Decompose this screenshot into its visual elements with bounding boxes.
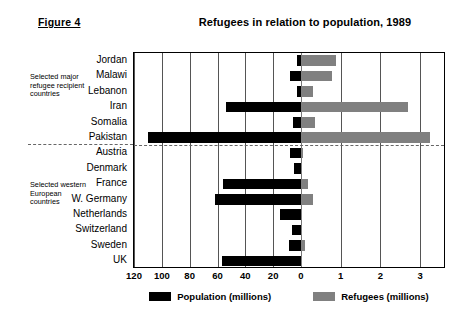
legend-label: Population (millions): [177, 291, 271, 302]
tick-label-population-60: 60: [212, 270, 223, 281]
country-label: Denmark: [60, 160, 131, 175]
chart-row: [134, 130, 444, 145]
bar-refugees: [301, 194, 313, 205]
chart-row: [134, 238, 444, 253]
chart-row: [134, 115, 444, 130]
bar-population: [222, 256, 301, 267]
bar-refugees: [301, 55, 336, 66]
group-divider-left: [28, 144, 133, 145]
chart-row: [134, 99, 444, 114]
tick-label-refugees-1: 1: [338, 270, 343, 281]
bar-refugees: [301, 163, 302, 174]
legend-item: Population (millions): [149, 291, 271, 302]
bar-refugees: [301, 71, 332, 82]
tick-label-population-40: 40: [240, 270, 251, 281]
tick-label-population-20: 20: [268, 270, 279, 281]
bar-refugees: [301, 102, 408, 113]
bar-population: [215, 194, 301, 205]
chart-row: [134, 207, 444, 222]
tick-label-population-100: 100: [154, 270, 170, 281]
bar-refugees: [301, 256, 302, 267]
chart-row: [134, 84, 444, 99]
bar-population: [290, 71, 301, 82]
tick-label-population-80: 80: [184, 270, 195, 281]
legend-label: Refugees (millions): [341, 291, 429, 302]
bar-population: [293, 117, 301, 128]
chart-row: [134, 145, 444, 160]
tick-label-population-0: 0: [298, 270, 303, 281]
country-label: Netherlands: [60, 206, 131, 221]
country-label: Malawi: [60, 67, 131, 82]
chart-row: [134, 176, 444, 191]
bar-population: [292, 225, 301, 236]
bar-population: [226, 102, 301, 113]
bar-refugees: [301, 209, 302, 220]
country-label: W. Germany: [60, 191, 131, 206]
country-label: France: [60, 175, 131, 190]
country-label: Sweden: [60, 237, 131, 252]
bar-refugees: [301, 240, 305, 251]
chart-row: [134, 68, 444, 83]
legend-swatch-icon: [149, 292, 171, 301]
tick-label-refugees-2: 2: [378, 270, 383, 281]
country-label: Switzerland: [60, 221, 131, 236]
tick-label-refugees-3: 3: [418, 270, 423, 281]
legend-item: Refugees (millions): [313, 291, 429, 302]
country-label: Somalia: [60, 114, 131, 129]
bar-refugees: [301, 117, 315, 128]
chart-row: [134, 253, 444, 268]
chart-title: Refugees in relation to population, 1989: [150, 16, 460, 28]
chart-row: [134, 161, 444, 176]
bar-refugees: [301, 148, 303, 159]
category-axis-labels: JordanMalawiLebanonIranSomaliaPakistanAu…: [60, 52, 131, 267]
value-axis-tick-labels: 120100806040200123: [133, 270, 445, 284]
bar-refugees: [301, 132, 430, 143]
group-divider: [134, 145, 444, 146]
country-label: Lebanon: [60, 83, 131, 98]
chart-row: [134, 222, 444, 237]
bar-population: [148, 132, 301, 143]
chart-row: [134, 192, 444, 207]
bar-population: [294, 163, 301, 174]
chart-plot-area: [133, 52, 445, 268]
bar-population: [280, 209, 301, 220]
bar-population: [289, 240, 301, 251]
country-label: Iran: [60, 98, 131, 113]
chart-row: [134, 53, 444, 68]
bar-population: [223, 179, 301, 190]
bar-refugees: [301, 225, 302, 236]
legend-swatch-icon: [313, 292, 335, 301]
country-label: Austria: [60, 144, 131, 159]
bar-refugees: [301, 86, 313, 97]
country-label: UK: [60, 252, 131, 267]
country-label: Pakistan: [60, 129, 131, 144]
country-label: Jordan: [60, 52, 131, 67]
chart-legend: Population (millions)Refugees (millions): [133, 291, 445, 302]
tick-label-population-120: 120: [126, 270, 142, 281]
figure-caption: Figure 4: [38, 16, 80, 28]
bar-population: [290, 148, 301, 159]
bar-refugees: [301, 179, 308, 190]
